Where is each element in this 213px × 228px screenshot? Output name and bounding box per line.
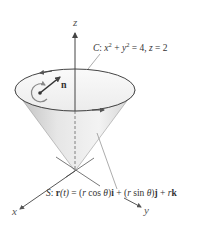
normal-vector-label: n — [61, 80, 67, 90]
curve-c-plus: + — [112, 43, 122, 53]
curve-c-z-rhs: = 2 — [153, 43, 168, 53]
surface-s-plus2: + — [158, 188, 168, 198]
cone-surface-diagram: z x y n C: x2 + y2 = 4, z = 2 S: r(t) = … — [0, 0, 213, 228]
y-axis-label: y — [144, 205, 149, 216]
curve-c-leader — [88, 54, 100, 69]
surface-s-k: k — [172, 188, 177, 198]
x-axis-label: x — [12, 206, 17, 217]
surface-s-leader — [97, 133, 117, 189]
z-axis-label: z — [73, 17, 77, 28]
curve-c-eq-rhs: = 4, — [129, 43, 149, 53]
surface-s-cos: cos — [86, 188, 103, 198]
surface-s-paren-t: (t) — [60, 188, 69, 198]
surface-s-sin: sin — [131, 188, 147, 198]
surface-s-label: S: r(t) = (r cos θ)i + (r sin θ)j + rk — [46, 189, 177, 199]
surface-s-equals: = ( — [69, 188, 82, 198]
surface-s-plus1: + ( — [114, 188, 127, 198]
curve-c-label: C: x2 + y2 = 4, z = 2 — [93, 44, 168, 54]
y-axis — [124, 198, 141, 207]
